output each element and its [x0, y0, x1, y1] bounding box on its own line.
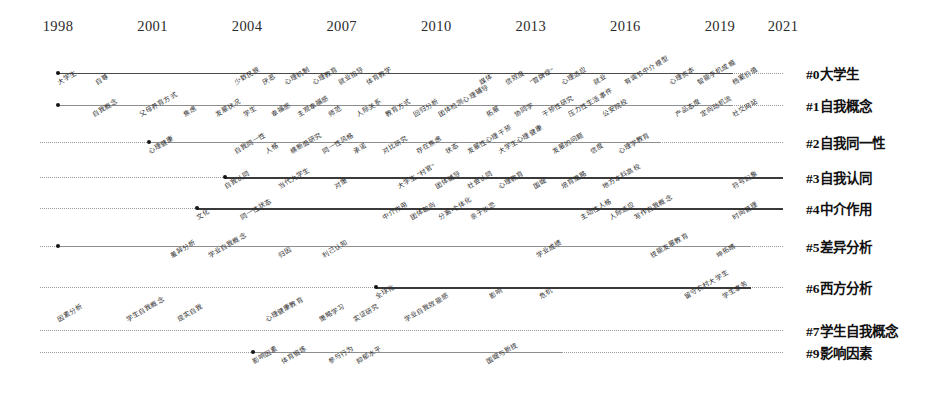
- year-tick-2004: 2004: [232, 18, 263, 35]
- row-active-span: [58, 246, 751, 247]
- keyword-label[interactable]: 培育策略: [561, 170, 589, 190]
- keyword-label[interactable]: 自我同一性: [233, 132, 267, 155]
- topic-label[interactable]: #6西方分析: [806, 277, 872, 297]
- keyword-label[interactable]: 人际适应: [608, 201, 636, 221]
- keyword-label[interactable]: 承诺: [353, 142, 369, 155]
- keyword-label[interactable]: 就业指导: [337, 66, 365, 86]
- keyword-label[interactable]: 横断面研究: [290, 132, 324, 155]
- row-baseline-dotted: [40, 330, 783, 331]
- topic-label[interactable]: #5差异分析: [806, 236, 872, 256]
- keyword-label[interactable]: 符号幻象: [731, 170, 759, 190]
- row-start-marker: [56, 244, 60, 248]
- year-tick-2019: 2019: [705, 18, 736, 35]
- keyword-label[interactable]: 就业: [592, 73, 608, 86]
- keyword-label[interactable]: 差异分析: [170, 239, 198, 259]
- row-start-marker: [56, 103, 60, 107]
- keyword-label[interactable]: 团体辅导: [435, 170, 463, 190]
- keyword-label[interactable]: 亲子依恋: [469, 201, 497, 221]
- keyword-label[interactable]: 现实自我: [176, 303, 204, 323]
- keyword-label[interactable]: 学生自我概念: [126, 296, 166, 323]
- keyword-label[interactable]: 信度: [589, 142, 605, 155]
- keyword-label[interactable]: 少数民族: [233, 66, 261, 86]
- keyword-label[interactable]: 国嫂与新技: [485, 342, 519, 365]
- keyword-label[interactable]: 团体检测心理辅导: [438, 84, 490, 118]
- year-tick-2021: 2021: [768, 18, 799, 35]
- keyword-label[interactable]: 产品态度: [674, 98, 702, 118]
- keyword-label[interactable]: 厌恶: [261, 73, 277, 86]
- keyword-label[interactable]: 危机: [539, 287, 555, 300]
- topic-label[interactable]: #3自我认同: [806, 167, 872, 187]
- keyword-label[interactable]: 因素分析: [56, 303, 84, 323]
- topic-label[interactable]: #7学生自我概念: [806, 320, 898, 340]
- keyword-label[interactable]: 心理适应: [561, 66, 589, 86]
- year-axis: 199820012004200720102013201620192021: [0, 0, 952, 44]
- topic-label[interactable]: #0大学生: [806, 63, 859, 83]
- keyword-label[interactable]: 体育教学: [365, 66, 393, 86]
- keyword-label[interactable]: 发展状况: [214, 98, 242, 118]
- row-start-marker: [56, 71, 60, 75]
- keyword-label[interactable]: 心理资本: [668, 66, 696, 86]
- row-start-marker: [147, 140, 151, 144]
- keyword-label[interactable]: 心理教育: [312, 66, 340, 86]
- keyword-label[interactable]: 心理教育: [498, 170, 526, 190]
- topic-label[interactable]: #1自我概念: [806, 95, 872, 115]
- keyword-label[interactable]: 状态: [444, 142, 460, 155]
- keyword-label[interactable]: 回归分析: [413, 98, 441, 118]
- keyword-label[interactable]: 中介作用: [381, 201, 409, 221]
- row-start-marker: [195, 206, 199, 210]
- keyword-label[interactable]: 心理机制: [283, 66, 311, 86]
- keyword-label[interactable]: 档案价值: [731, 66, 759, 86]
- keyword-label[interactable]: 体育锻炼: [280, 345, 308, 365]
- year-tick-2013: 2013: [516, 18, 547, 35]
- keyword-label[interactable]: 学业自我效能感: [403, 293, 449, 324]
- keyword-label[interactable]: 自我认同: [223, 170, 251, 190]
- keyword-label[interactable]: 团体取向: [409, 201, 437, 221]
- topic-label[interactable]: #9影响因素: [806, 342, 872, 362]
- keyword-label[interactable]: 发展的问题: [551, 132, 585, 155]
- keyword-label[interactable]: 学生: [242, 105, 258, 118]
- keyword-label[interactable]: 主观幸福感: [296, 95, 330, 118]
- keyword-label[interactable]: 实证研究: [353, 303, 381, 323]
- keyword-label[interactable]: 学生事务: [721, 280, 749, 300]
- row-start-marker: [374, 285, 378, 289]
- year-tick-1998: 1998: [43, 18, 74, 35]
- keyword-label[interactable]: 利己认知: [321, 239, 349, 259]
- keyword-label[interactable]: 自我概念: [91, 98, 119, 118]
- keyword-label[interactable]: 定向动机流: [699, 95, 733, 118]
- year-tick-2001: 2001: [137, 18, 168, 35]
- keyword-label[interactable]: 学业成绩: [535, 239, 563, 259]
- topic-label[interactable]: #4中介作用: [806, 198, 872, 218]
- keyword-label[interactable]: 对比研究: [381, 135, 409, 155]
- keyword-label[interactable]: 影响因素: [252, 345, 280, 365]
- keyword-label[interactable]: 策略学习: [318, 303, 346, 323]
- keyword-label[interactable]: 教育方式: [384, 98, 412, 118]
- keyword-label[interactable]: 焦虑: [182, 105, 198, 118]
- year-tick-2007: 2007: [326, 18, 357, 35]
- keyword-label[interactable]: 国嫂: [532, 177, 548, 190]
- keyword-label[interactable]: 影响: [488, 287, 504, 300]
- keyword-label[interactable]: 人际关系: [356, 98, 384, 118]
- keyword-label[interactable]: 有调节中介模型: [624, 56, 670, 87]
- topic-label[interactable]: #2自我同一性: [806, 132, 885, 152]
- keyword-label[interactable]: 存在焦虑: [416, 135, 444, 155]
- keyword-label[interactable]: 文化: [195, 208, 211, 221]
- topic-timeline-chart: 199820012004200720102013201620192021 大学生…: [0, 0, 952, 396]
- keyword-label[interactable]: "冒牌症": [529, 67, 555, 86]
- row-start-marker: [223, 175, 227, 179]
- keyword-label[interactable]: 人格: [264, 142, 280, 155]
- keyword-label[interactable]: 参与行为: [327, 345, 355, 365]
- keyword-label[interactable]: 公安院校: [602, 98, 630, 118]
- keyword-label[interactable]: 心理健康: [148, 135, 176, 155]
- keyword-label[interactable]: 时间管理: [731, 201, 759, 221]
- keyword-label[interactable]: 社会认同: [466, 170, 494, 190]
- keyword-label[interactable]: 师范: [327, 105, 343, 118]
- keyword-label[interactable]: 同一性风格: [321, 132, 355, 155]
- keyword-label[interactable]: 心理学教育: [617, 132, 651, 155]
- keyword-label[interactable]: 抑郁水平: [356, 345, 384, 365]
- keyword-label[interactable]: 社交网站: [731, 98, 759, 118]
- keyword-label[interactable]: 拓展: [485, 105, 501, 118]
- keyword-label[interactable]: 自尊: [94, 73, 110, 86]
- keyword-label[interactable]: 归因: [277, 246, 293, 259]
- keyword-label[interactable]: 对策: [334, 177, 350, 190]
- keyword-label[interactable]: 心理健康教育: [264, 296, 304, 323]
